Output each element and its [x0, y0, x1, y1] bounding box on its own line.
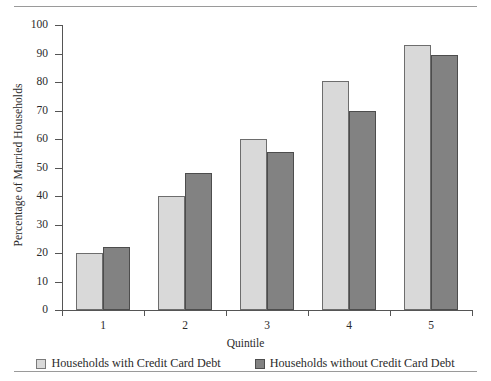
bar	[404, 45, 431, 310]
y-axis-tick-label: 10	[8, 276, 48, 288]
y-axis-tick	[55, 225, 62, 226]
x-axis-tick-label: 5	[411, 319, 451, 331]
y-axis-tick	[55, 168, 62, 169]
x-axis-tick-label: 1	[83, 319, 123, 331]
bar	[103, 247, 130, 310]
legend-item-without-debt[interactable]: Households without Credit Card Debt	[255, 356, 455, 371]
y-axis-spine	[62, 25, 63, 311]
light-gray-swatch-icon	[36, 359, 46, 369]
y-axis-tick-label: 20	[8, 247, 48, 259]
x-axis-tick	[308, 310, 309, 316]
y-axis-tick	[55, 54, 62, 55]
y-axis-tick	[55, 282, 62, 283]
y-axis-tick-label: 0	[8, 304, 48, 316]
x-axis-tick	[472, 310, 473, 316]
y-axis-tick	[55, 111, 62, 112]
x-axis-tick	[144, 310, 145, 316]
y-axis-tick	[55, 196, 62, 197]
y-axis-tick-label: 80	[8, 76, 48, 88]
y-axis-tick	[55, 310, 62, 311]
y-axis-tick-label: 40	[8, 190, 48, 202]
y-axis-tick-label: 30	[8, 219, 48, 231]
y-axis-tick-label: 100	[8, 19, 48, 31]
bar	[267, 152, 294, 310]
x-axis-tick	[226, 310, 227, 316]
figure-container: Percentage of Married Households Quintil…	[0, 0, 491, 381]
bar	[76, 253, 103, 310]
y-axis-tick	[55, 139, 62, 140]
x-axis-spine	[62, 310, 472, 311]
bar	[431, 55, 458, 310]
y-axis-tick	[55, 82, 62, 83]
dark-gray-swatch-icon	[255, 359, 265, 369]
x-axis-tick	[62, 310, 63, 316]
y-axis-tick-label: 50	[8, 162, 48, 174]
chart-legend: Households with Credit Card Debt Househo…	[0, 356, 491, 371]
y-axis-tick	[55, 25, 62, 26]
legend-item-with-debt[interactable]: Households with Credit Card Debt	[36, 356, 220, 371]
bottom-horizontal-rule	[14, 371, 477, 372]
bar	[322, 81, 349, 310]
y-axis-tick	[55, 253, 62, 254]
bar	[349, 111, 376, 311]
x-axis-title: Quintile	[0, 337, 491, 349]
y-axis-tick-label: 60	[8, 133, 48, 145]
legend-label-without-debt: Households without Credit Card Debt	[270, 356, 455, 371]
bar	[158, 196, 185, 310]
x-axis-tick-label: 3	[247, 319, 287, 331]
legend-label-with-debt: Households with Credit Card Debt	[51, 356, 220, 371]
x-axis-tick	[390, 310, 391, 316]
top-horizontal-rule	[14, 6, 477, 7]
y-axis-tick-label: 70	[8, 105, 48, 117]
x-axis-tick-label: 4	[329, 319, 369, 331]
y-axis-tick-label: 90	[8, 48, 48, 60]
bar	[185, 173, 212, 310]
bar	[240, 139, 267, 310]
x-axis-tick-label: 2	[165, 319, 205, 331]
